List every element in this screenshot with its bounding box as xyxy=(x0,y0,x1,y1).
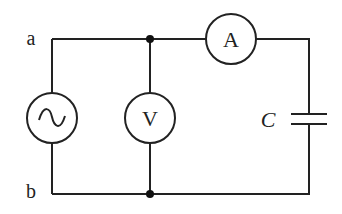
voltmeter-label: V xyxy=(142,106,158,131)
capacitor: C xyxy=(261,107,327,132)
bottom-wire xyxy=(52,124,309,194)
sine-wave-icon xyxy=(39,109,65,126)
top-wire-right xyxy=(256,39,309,114)
voltmeter: V xyxy=(125,93,175,143)
junction-bottom xyxy=(146,190,154,198)
ammeter: A xyxy=(206,14,256,64)
ac-source xyxy=(27,93,77,143)
terminal-a-label: a xyxy=(27,27,36,49)
ammeter-label: A xyxy=(223,27,239,52)
junction-top xyxy=(146,35,154,43)
terminal-b-label: b xyxy=(26,180,36,202)
capacitor-label: C xyxy=(261,107,276,132)
circuit-diagram: V A C a b xyxy=(0,0,342,214)
